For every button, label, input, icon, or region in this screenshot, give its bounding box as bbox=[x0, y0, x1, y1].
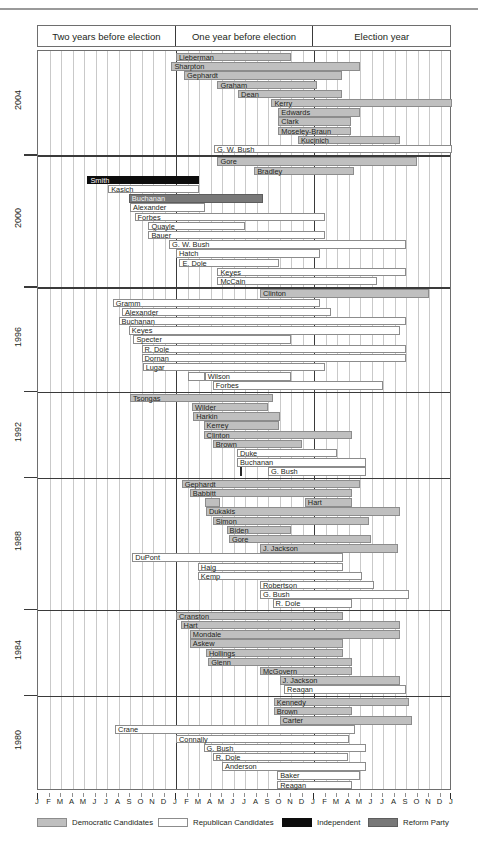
candidate-bar[interactable]: DuPont bbox=[132, 553, 342, 562]
candidate-bar[interactable]: Cranston bbox=[176, 612, 343, 621]
candidate-bar[interactable]: Gephardt bbox=[184, 71, 342, 80]
candidate-bar[interactable]: Hart bbox=[305, 498, 352, 507]
candidate-bar[interactable]: Brown bbox=[213, 440, 303, 449]
candidate-bar[interactable]: Kerry bbox=[271, 99, 452, 108]
candidate-bar[interactable]: Baker bbox=[277, 771, 360, 780]
candidate-bar-label: Hatch bbox=[179, 249, 198, 258]
candidate-bar[interactable]: Dornan bbox=[142, 354, 407, 363]
month-tick-label: J bbox=[89, 797, 101, 806]
candidate-bar[interactable]: R. Dole bbox=[142, 345, 407, 354]
candidate-bar[interactable]: Buchanan bbox=[237, 458, 366, 467]
candidate-bar[interactable]: Dukakis bbox=[206, 507, 400, 516]
candidate-bar[interactable]: R. Dole bbox=[213, 753, 349, 762]
candidate-bar[interactable]: R. Dole bbox=[273, 599, 352, 608]
month-tick-label: O bbox=[411, 797, 423, 806]
candidate-bar[interactable]: Biden bbox=[227, 526, 291, 535]
candidate-bar[interactable]: Babbitt bbox=[190, 489, 352, 498]
candidate-bar-label: McCain bbox=[220, 277, 245, 286]
candidate-bar[interactable]: McCain bbox=[217, 277, 377, 286]
candidate-bar[interactable]: Clinton bbox=[204, 431, 352, 440]
month-tick-label: O bbox=[273, 797, 285, 806]
candidate-bar[interactable]: Simon bbox=[213, 517, 369, 526]
candidate-bar[interactable]: Smith bbox=[87, 176, 199, 185]
candidate-bar[interactable]: E. Dole bbox=[179, 259, 279, 268]
candidate-bar-label: Brown bbox=[216, 440, 237, 449]
candidate-bar[interactable]: Clinton bbox=[260, 289, 429, 298]
candidate-bar[interactable]: Forbes bbox=[135, 213, 326, 222]
candidate-bar[interactable]: Anderson bbox=[222, 762, 366, 771]
month-tick-label: J bbox=[31, 797, 43, 806]
month-tick-label: A bbox=[388, 797, 400, 806]
candidate-bar[interactable]: Harkin bbox=[193, 412, 279, 421]
candidate-bar-label: Robertson bbox=[263, 581, 297, 590]
candidate-bar[interactable]: Bradley bbox=[254, 167, 354, 176]
candidate-bar[interactable]: Duke bbox=[237, 449, 337, 458]
candidate-bar-label: Keyes bbox=[132, 326, 153, 335]
candidate-bar[interactable]: Buchanan bbox=[119, 317, 407, 326]
candidate-bar[interactable]: Reagan bbox=[284, 685, 406, 694]
month-tick-label: D bbox=[158, 797, 170, 806]
candidate-bar[interactable]: Graham bbox=[217, 81, 317, 90]
month-tick-label: A bbox=[250, 797, 262, 806]
candidate-bar[interactable]: Keyes bbox=[129, 326, 400, 335]
candidate-bar[interactable]: Lieberman bbox=[176, 53, 291, 62]
candidate-bar[interactable]: Kemp bbox=[198, 572, 362, 581]
candidate-bar-label: Gephardt bbox=[187, 71, 218, 80]
candidate-bar-label: Keyes bbox=[220, 268, 241, 277]
candidate-bar[interactable]: Crane bbox=[115, 725, 355, 734]
candidate-bar[interactable]: Moseley-Braun bbox=[278, 127, 350, 136]
candidate-bar[interactable]: Specter bbox=[133, 335, 291, 344]
candidate-bar[interactable]: Alexander bbox=[122, 308, 331, 317]
candidate-bar[interactable]: J. Jackson bbox=[260, 544, 398, 553]
candidate-bar[interactable]: Glenn bbox=[208, 658, 352, 667]
candidate-bar[interactable]: Gephardt bbox=[182, 480, 360, 489]
candidate-bar[interactable]: Gramm bbox=[113, 299, 320, 308]
candidate-bar[interactable]: McGovern bbox=[260, 667, 352, 676]
candidate-bar[interactable]: Hatch bbox=[176, 249, 320, 258]
candidate-bar[interactable]: Brown bbox=[274, 707, 352, 716]
candidate-bar[interactable]: Kennedy bbox=[274, 698, 410, 707]
candidate-bar[interactable]: Kerrey bbox=[204, 421, 280, 430]
candidate-bar[interactable]: Keyes bbox=[217, 268, 406, 277]
candidate-bar[interactable]: Quayle bbox=[148, 222, 245, 231]
candidate-bar-label: J. Jackson bbox=[263, 544, 298, 553]
candidate-bar-label: Hollings bbox=[209, 649, 235, 658]
year-label-text: 2004 bbox=[14, 90, 24, 110]
candidate-bar[interactable]: Kasich bbox=[108, 185, 199, 194]
candidate-bar[interactable]: Haig bbox=[198, 563, 343, 572]
candidate-bar[interactable]: Edwards bbox=[278, 108, 360, 117]
year-axis-tick bbox=[24, 695, 37, 696]
candidate-bar[interactable]: Hart bbox=[181, 621, 401, 630]
candidate-bar[interactable]: Kucinich bbox=[298, 136, 400, 145]
candidate-bar[interactable]: G. W. Bush bbox=[169, 240, 406, 249]
month-gridline bbox=[165, 51, 166, 789]
candidate-bar[interactable]: G. Bush bbox=[268, 467, 366, 476]
candidate-bar[interactable]: Buchanan bbox=[129, 194, 264, 203]
candidate-bar[interactable]: G. Bush bbox=[260, 590, 410, 599]
candidate-bar[interactable]: Gore bbox=[229, 535, 372, 544]
candidate-bar[interactable]: Lugar bbox=[143, 363, 326, 372]
candidate-bar[interactable]: Wilder bbox=[192, 403, 268, 412]
candidate-bar[interactable]: Bauer bbox=[148, 231, 325, 240]
candidate-bar[interactable]: J. Jackson bbox=[280, 676, 401, 685]
year-label-1984: 1984 bbox=[0, 645, 37, 655]
candidate-bar[interactable]: Tsongas bbox=[130, 394, 273, 403]
candidate-bar[interactable]: Sharpton bbox=[171, 62, 360, 71]
candidate-bar-label: Buchanan bbox=[122, 317, 155, 326]
candidate-bar[interactable]: Connally bbox=[176, 735, 349, 744]
candidate-bar[interactable]: Askew bbox=[190, 639, 343, 648]
candidate-bar[interactable]: Hollings bbox=[206, 649, 343, 658]
candidate-bar[interactable]: Wilson bbox=[205, 372, 291, 381]
candidate-bar[interactable]: Robertson bbox=[260, 581, 374, 590]
candidate-bar[interactable]: Alexander bbox=[130, 203, 205, 212]
candidate-bar[interactable]: Dean bbox=[238, 90, 342, 99]
candidate-bar-label: Gephardt bbox=[185, 480, 216, 489]
candidate-bar[interactable]: Gore bbox=[217, 157, 417, 166]
candidate-bar[interactable]: G. Bush bbox=[204, 744, 366, 753]
candidate-bar[interactable]: Mondale bbox=[190, 630, 400, 639]
candidate-bar[interactable]: Forbes bbox=[213, 381, 383, 390]
candidate-bar[interactable]: Clark bbox=[278, 117, 350, 126]
candidate-bar[interactable]: Carter bbox=[280, 716, 412, 725]
candidate-bar[interactable]: Reagan bbox=[277, 781, 352, 790]
candidate-bar[interactable]: G. W. Bush bbox=[214, 145, 452, 154]
